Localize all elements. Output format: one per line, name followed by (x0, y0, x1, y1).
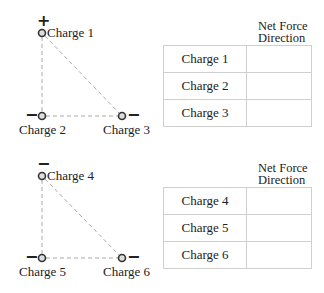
table-row: Charge 1 (164, 46, 312, 73)
direction-cell[interactable] (247, 242, 312, 269)
table-row: Charge 5 (164, 215, 312, 242)
direction-cell[interactable] (247, 188, 312, 215)
charge-3-label: Charge 3 (103, 123, 150, 137)
charge-4-label: Charge 4 (47, 169, 94, 183)
charge-2-point (39, 113, 46, 120)
charge-5-point (39, 255, 46, 262)
direction-cell[interactable] (247, 215, 312, 242)
direction-cell[interactable] (247, 100, 312, 127)
charge-name-cell: Charge 3 (164, 100, 247, 127)
net-force-header-1: Net Force Direction (258, 20, 308, 44)
charge-6-label: Charge 6 (103, 265, 150, 279)
net-force-table-2: Charge 4 Charge 5 Charge 6 (163, 187, 312, 269)
charge-name-cell: Charge 5 (164, 215, 247, 242)
net-force-header-2: Net Force Direction (258, 162, 308, 186)
net-force-table-1: Charge 1 Charge 2 Charge 3 (163, 45, 312, 127)
charge-5-label: Charge 5 (19, 265, 66, 279)
charge-2-sign: − (25, 108, 38, 122)
charge-4-point (39, 173, 46, 180)
charge-3-point (119, 113, 126, 120)
table-row: Charge 3 (164, 100, 312, 127)
header-line-2: Direction (258, 32, 308, 44)
charge-5-sign: − (25, 250, 38, 264)
direction-cell[interactable] (247, 73, 312, 100)
charge-1-label: Charge 1 (47, 26, 94, 40)
charge-6-point (119, 255, 126, 262)
direction-cell[interactable] (247, 46, 312, 73)
charge-name-cell: Charge 4 (164, 188, 247, 215)
charge-3-sign: − (127, 108, 140, 122)
table-row: Charge 2 (164, 73, 312, 100)
charge-1-point (39, 30, 46, 37)
charge-diagram-section-1: + Charge 1 − Charge 2 − Charge 3 Net For… (0, 0, 324, 143)
header-line-2: Direction (258, 174, 308, 186)
charge-6-sign: − (127, 250, 140, 264)
charge-name-cell: Charge 6 (164, 242, 247, 269)
table-row: Charge 4 (164, 188, 312, 215)
charge-name-cell: Charge 1 (164, 46, 247, 73)
charge-diagram-section-2: − Charge 4 − Charge 5 − Charge 6 Net For… (0, 142, 324, 285)
charge-2-label: Charge 2 (19, 123, 66, 137)
charge-name-cell: Charge 2 (164, 73, 247, 100)
table-row: Charge 6 (164, 242, 312, 269)
